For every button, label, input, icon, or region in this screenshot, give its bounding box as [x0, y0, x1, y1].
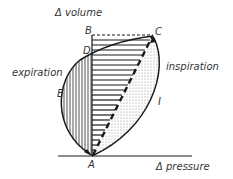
point-c-label: C	[155, 27, 162, 37]
expiration-vertical-hatch	[62, 52, 92, 156]
point-e-label: E	[57, 89, 63, 99]
inspiration-label: inspiration	[166, 62, 219, 72]
point-i-label: I	[158, 97, 161, 107]
point-a-label: A	[88, 160, 95, 170]
inspiration-stipple-area	[92, 36, 159, 156]
volume-axis-label: Δ volume	[55, 8, 102, 18]
expiration-label: expiration	[12, 68, 63, 78]
point-d-label: D	[83, 46, 91, 56]
pressure-axis-label: Δ pressure	[156, 162, 210, 172]
pressure-volume-loop	[0, 0, 233, 179]
point-b-label: B	[85, 26, 92, 36]
